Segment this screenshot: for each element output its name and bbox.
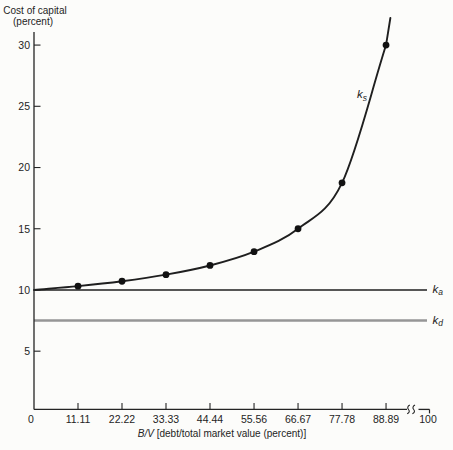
tick-labels-layer: 51015202530011.1122.2233.3344.4455.5666.… (18, 39, 437, 425)
y-axis-title-line2: (percent) (13, 16, 53, 27)
x-axis-title: B/V [debt/total market value (percent)] (138, 428, 307, 439)
x-axis-title-rest: [debt/total market value (percent)] (154, 428, 307, 439)
ks-data-point (119, 278, 126, 285)
figure-container: 51015202530011.1122.2233.3344.4455.5666.… (0, 0, 453, 450)
axis-break-squiggle (412, 405, 415, 414)
x-tick-label: 88.89 (373, 413, 399, 425)
y-tick-label: 20 (18, 161, 30, 173)
x-tick-label: 66.67 (285, 413, 311, 425)
x-tick-label: 22.22 (109, 413, 135, 425)
y-tick-label: 25 (18, 100, 30, 112)
x-tick-label: 11.11 (66, 413, 91, 425)
y-axis-title-line1: Cost of capital (3, 5, 66, 16)
x-tick-label: 77.78 (329, 413, 355, 425)
cost-of-capital-chart: 51015202530011.1122.2233.3344.4455.5666.… (0, 0, 453, 450)
axes-layer (34, 32, 430, 414)
x-axis-title-variable: B/V (138, 428, 155, 439)
ks-data-point (339, 179, 346, 186)
series-layer (34, 18, 427, 321)
x-tick-label: 44.44 (197, 413, 223, 425)
x-tick-label: 33.33 (153, 413, 179, 425)
ks-data-point (163, 271, 170, 278)
ks-data-point (75, 283, 82, 290)
y-tick-label: 5 (24, 345, 30, 357)
ks-data-point (251, 248, 258, 255)
x-tick-label: 100 (419, 413, 437, 425)
ks-curve-label: ks (357, 88, 368, 103)
y-tick-label: 15 (18, 223, 30, 235)
axis-break-squiggle (407, 405, 410, 414)
x-tick-label: 55.56 (241, 413, 267, 425)
kd-line-label: kd (433, 314, 444, 329)
ks-curve (34, 18, 390, 290)
x-tick-label: 0 (28, 413, 34, 425)
ks-data-point (295, 225, 302, 232)
ks-data-point (207, 262, 214, 269)
y-tick-label: 10 (18, 284, 30, 296)
ka-line-label: ka (433, 283, 444, 298)
ks-data-point (383, 42, 390, 49)
y-tick-label: 30 (18, 39, 30, 51)
